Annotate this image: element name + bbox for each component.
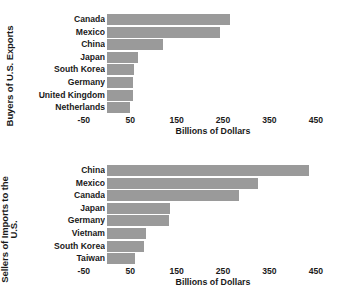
exports-bar bbox=[107, 77, 133, 88]
exports-category-label: China bbox=[22, 39, 105, 50]
exports-category-label: Japan bbox=[22, 52, 105, 63]
imports-category-labels: ChinaMexicoCanadaJapanGermanyVietnamSout… bbox=[22, 165, 105, 266]
imports-bar bbox=[107, 203, 170, 214]
exports-x-tick-label: -50 bbox=[78, 115, 90, 125]
exports-category-label: Canada bbox=[22, 14, 105, 25]
exports-bar-row bbox=[107, 14, 356, 25]
exports-bar-chart: Buyers of U.S. Exports CanadaMexicoChina… bbox=[0, 0, 356, 152]
imports-bar-row bbox=[107, 165, 356, 176]
exports-bar-row bbox=[107, 77, 356, 88]
imports-bar-chart: Sellers of Imports to the U.S. ChinaMexi… bbox=[0, 152, 356, 307]
imports-category-label: Japan bbox=[22, 203, 105, 214]
exports-category-label: United Kingdom bbox=[22, 90, 105, 101]
exports-x-axis-title: Billions of Dollars bbox=[0, 126, 356, 136]
exports-bar bbox=[107, 52, 138, 63]
exports-bar-row bbox=[107, 64, 356, 75]
imports-x-tick-label: -50 bbox=[78, 266, 90, 276]
imports-x-tick-label: 250 bbox=[216, 266, 230, 276]
imports-x-axis-title-text: Billions of Dollars bbox=[106, 277, 251, 287]
exports-x-axis-title-text: Billions of Dollars bbox=[106, 126, 251, 136]
exports-bar-row bbox=[107, 102, 356, 113]
imports-x-tick-label: 150 bbox=[169, 266, 183, 276]
exports-bar bbox=[107, 64, 134, 75]
imports-bar bbox=[107, 253, 135, 264]
exports-plot-area bbox=[107, 14, 356, 115]
exports-x-tick-label: 450 bbox=[309, 115, 323, 125]
imports-bar bbox=[107, 241, 144, 252]
imports-bar-row bbox=[107, 253, 356, 264]
exports-x-tick-label: 350 bbox=[262, 115, 276, 125]
imports-plot-area bbox=[107, 165, 356, 266]
imports-x-tick-label: 450 bbox=[309, 266, 323, 276]
imports-category-label: China bbox=[22, 165, 105, 176]
exports-bar bbox=[107, 27, 220, 38]
imports-category-label: Germany bbox=[22, 215, 105, 226]
exports-category-labels: CanadaMexicoChinaJapanSouth KoreaGermany… bbox=[22, 14, 105, 115]
imports-x-tick-label: 50 bbox=[125, 266, 135, 276]
exports-bar-row bbox=[107, 39, 356, 50]
exports-x-axis: Billions of Dollars -5050150250350450 bbox=[0, 115, 356, 141]
imports-bar-row bbox=[107, 215, 356, 226]
exports-bar-row bbox=[107, 52, 356, 63]
exports-category-label: Mexico bbox=[22, 27, 105, 38]
imports-category-label: Vietnam bbox=[22, 228, 105, 239]
exports-category-label: South Korea bbox=[22, 64, 105, 75]
imports-bar bbox=[107, 178, 258, 189]
exports-bar bbox=[107, 39, 163, 50]
exports-category-label: Germany bbox=[22, 77, 105, 88]
exports-bar bbox=[107, 102, 130, 113]
exports-category-label: Netherlands bbox=[22, 102, 105, 113]
exports-x-tick-label: 150 bbox=[169, 115, 183, 125]
imports-bar-row bbox=[107, 203, 356, 214]
exports-x-tick-label: 50 bbox=[125, 115, 135, 125]
imports-bar-row bbox=[107, 178, 356, 189]
exports-x-tick-label: 250 bbox=[216, 115, 230, 125]
imports-bar-row bbox=[107, 241, 356, 252]
imports-bar bbox=[107, 228, 146, 239]
imports-bar bbox=[107, 165, 309, 176]
imports-category-label: South Korea bbox=[22, 241, 105, 252]
exports-bar-row bbox=[107, 27, 356, 38]
imports-bar-row bbox=[107, 190, 356, 201]
imports-x-axis: Billions of Dollars -5050150250350450 bbox=[0, 266, 356, 292]
exports-bar bbox=[107, 90, 133, 101]
imports-bar bbox=[107, 190, 239, 201]
imports-bar bbox=[107, 215, 169, 226]
imports-category-label: Taiwan bbox=[22, 253, 105, 264]
imports-bar-row bbox=[107, 228, 356, 239]
exports-bar bbox=[107, 14, 230, 25]
exports-bar-row bbox=[107, 90, 356, 101]
imports-x-tick-label: 350 bbox=[262, 266, 276, 276]
imports-x-axis-title: Billions of Dollars bbox=[0, 277, 356, 287]
imports-category-label: Canada bbox=[22, 190, 105, 201]
imports-category-label: Mexico bbox=[22, 178, 105, 189]
